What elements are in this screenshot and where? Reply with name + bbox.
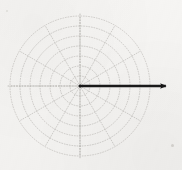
- polar-plot-canvas: [0, 0, 182, 170]
- polar-plot-figure: [0, 0, 182, 170]
- origin-point: [79, 85, 82, 88]
- vector-arrow-group: [79, 85, 166, 88]
